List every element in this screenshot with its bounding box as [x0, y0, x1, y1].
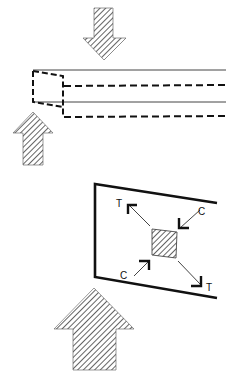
hatched-arrow-up-large-icon [54, 288, 134, 370]
compression-arrow-top-right-icon: C [179, 206, 205, 228]
hatched-arrow-down-icon [83, 8, 126, 60]
beam [33, 70, 226, 117]
compression-arrow-bottom-left-icon: C [120, 261, 149, 281]
tension-arrow-bottom-right-icon: T [178, 261, 212, 293]
hatched-arrow-up-icon [13, 112, 53, 165]
deformed-beam-end [33, 71, 63, 117]
stressed-element-square [152, 229, 177, 258]
shear-stress-diagram: T C C T [0, 0, 238, 377]
label-tension-bottom: T [206, 282, 212, 293]
label-compression-top: C [198, 206, 205, 217]
label-compression-bottom: C [120, 270, 127, 281]
label-tension-top: T [116, 198, 122, 209]
tension-arrow-top-left-icon: T [116, 198, 150, 226]
